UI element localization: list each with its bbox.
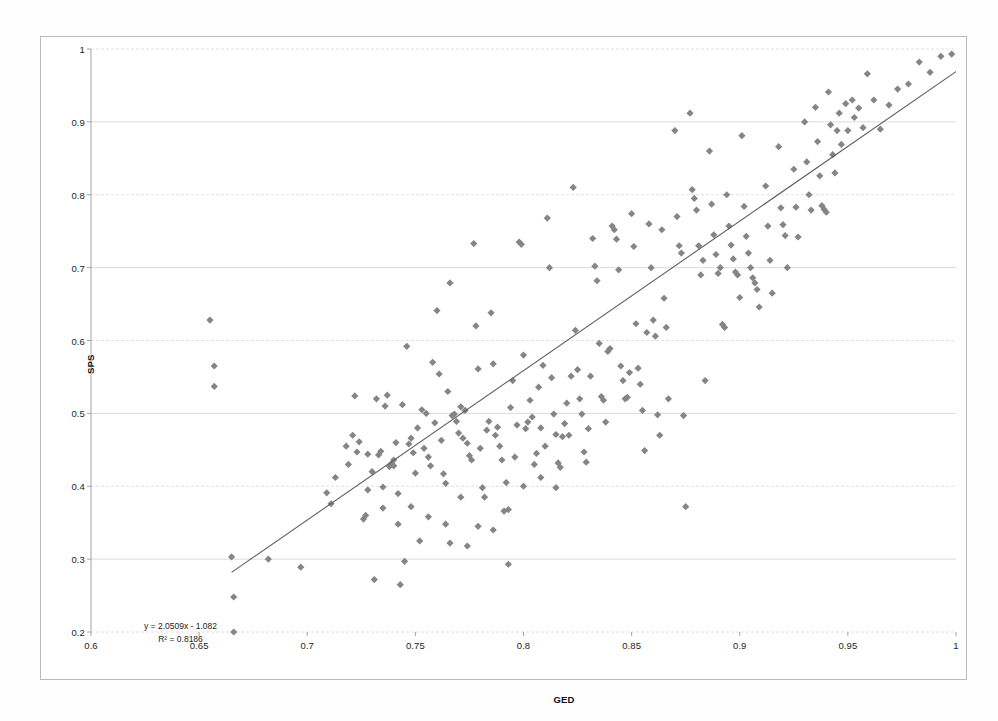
- page-background: 0.60.650.70.750.80.850.90.951 0.20.30.40…: [0, 0, 998, 721]
- data-point-marker: [559, 433, 566, 440]
- y-tick-label: 0.7: [65, 262, 85, 273]
- y-tick-label: 0.5: [65, 408, 85, 419]
- data-point-marker: [736, 294, 743, 301]
- data-point-marker: [816, 172, 823, 179]
- data-point-marker: [535, 384, 542, 391]
- data-point-marker: [849, 96, 856, 103]
- data-point-marker: [831, 169, 838, 176]
- data-point-marker: [548, 374, 555, 381]
- data-point-marker: [552, 484, 559, 491]
- data-point-marker: [379, 483, 386, 490]
- data-point-marker: [602, 419, 609, 426]
- data-point-marker: [589, 235, 596, 242]
- data-point-marker: [583, 459, 590, 466]
- data-point-marker: [745, 249, 752, 256]
- data-point-marker: [814, 138, 821, 145]
- data-point-marker: [756, 303, 763, 310]
- data-point-marker: [658, 226, 665, 233]
- data-point-marker: [420, 445, 427, 452]
- y-tick-label: 0.6: [65, 335, 85, 346]
- data-point-marker: [351, 392, 358, 399]
- data-point-marker: [474, 523, 481, 530]
- data-point-marker: [494, 424, 501, 431]
- data-point-marker: [654, 411, 661, 418]
- data-point-marker: [859, 124, 866, 131]
- data-point-marker: [808, 206, 815, 213]
- data-point-marker: [740, 203, 747, 210]
- data-point-marker: [526, 397, 533, 404]
- data-point-marker: [673, 213, 680, 220]
- data-point-marker: [825, 88, 832, 95]
- data-point-marker: [563, 400, 570, 407]
- scatter-plot-canvas: [41, 37, 966, 679]
- data-point-marker: [379, 505, 386, 512]
- y-tick-label: 0.2: [65, 627, 85, 638]
- data-point-marker: [407, 435, 414, 442]
- data-point-marker: [565, 432, 572, 439]
- x-axis-title: GED: [553, 694, 574, 705]
- data-point-marker: [697, 271, 704, 278]
- x-tick-label: 0.95: [838, 640, 857, 651]
- data-point-marker: [587, 373, 594, 380]
- data-point-marker: [446, 539, 453, 546]
- data-point-marker: [652, 333, 659, 340]
- data-point-marker: [561, 420, 568, 427]
- data-point-marker: [812, 104, 819, 111]
- data-point-marker: [660, 295, 667, 302]
- data-point-marker: [483, 427, 490, 434]
- data-point-marker: [647, 264, 654, 271]
- data-point-marker: [440, 470, 447, 477]
- data-point-marker: [689, 186, 696, 193]
- data-point-marker: [682, 503, 689, 510]
- data-point-marker: [371, 576, 378, 583]
- x-tick-label: 0.75: [406, 640, 425, 651]
- x-tick-label: 0.85: [622, 640, 641, 651]
- data-point-marker: [412, 470, 419, 477]
- data-point-marker: [472, 322, 479, 329]
- data-point-marker: [593, 277, 600, 284]
- data-point-marker: [650, 316, 657, 323]
- data-point-marker: [795, 233, 802, 240]
- data-point-marker: [438, 437, 445, 444]
- x-tick-label: 0.8: [517, 640, 531, 651]
- data-point-marker: [894, 85, 901, 92]
- tick-marks: [87, 49, 956, 636]
- data-point-marker: [626, 369, 633, 376]
- x-tick-label: 0.7: [300, 640, 314, 651]
- data-point-marker: [693, 206, 700, 213]
- data-point-marker: [531, 461, 538, 468]
- data-point-marker: [591, 263, 598, 270]
- y-tick-label: 0.9: [65, 116, 85, 127]
- data-point-marker: [635, 365, 642, 372]
- data-point-marker: [524, 419, 531, 426]
- y-axis-title: SPS: [85, 354, 96, 374]
- data-point-marker: [937, 53, 944, 60]
- data-point-marker: [864, 70, 871, 77]
- data-point-marker: [459, 435, 466, 442]
- chart-frame: 0.60.650.70.750.80.850.90.951 0.20.30.40…: [40, 36, 967, 680]
- data-point-marker: [490, 360, 497, 367]
- x-tick-label: 0.9: [733, 640, 747, 651]
- data-point-marker: [838, 141, 845, 148]
- data-point-marker: [206, 316, 213, 323]
- data-point-marker: [464, 542, 471, 549]
- data-point-marker: [455, 429, 462, 436]
- data-point-marker: [529, 413, 536, 420]
- data-point-marker: [803, 158, 810, 165]
- data-point-marker: [394, 490, 401, 497]
- data-point-marker: [730, 255, 737, 262]
- data-point-marker: [877, 126, 884, 133]
- data-point-marker: [645, 220, 652, 227]
- data-point-marker: [738, 132, 745, 139]
- data-point-marker: [775, 143, 782, 150]
- data-point-marker: [641, 447, 648, 454]
- data-point-marker: [353, 448, 360, 455]
- data-point-marker: [686, 110, 693, 117]
- data-point-marker: [470, 240, 477, 247]
- data-point-marker: [706, 147, 713, 154]
- data-point-marker: [762, 182, 769, 189]
- data-point-marker: [513, 421, 520, 428]
- data-point-marker: [708, 201, 715, 208]
- data-point-marker: [490, 526, 497, 533]
- data-point-marker: [637, 381, 644, 388]
